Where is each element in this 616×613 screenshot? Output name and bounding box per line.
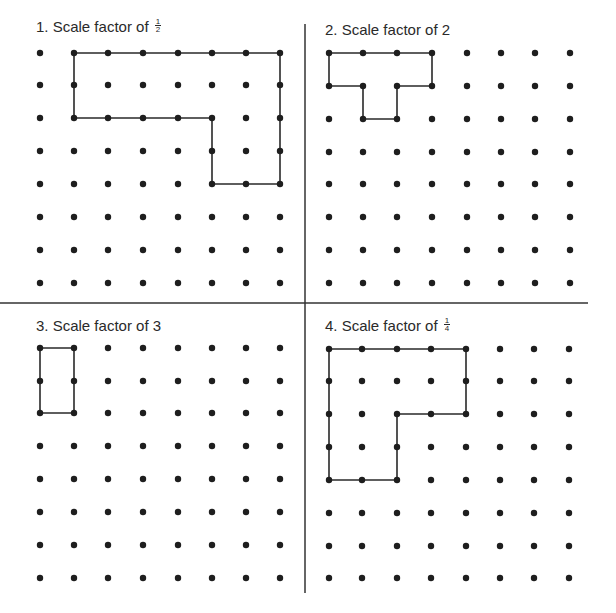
grid-dot [243,82,249,88]
grid-dot [71,575,77,581]
grid-dot [277,345,283,351]
grid-dot [277,509,283,515]
grid-dot [71,148,77,154]
grid-dot [71,410,77,416]
grid-dot [209,280,215,286]
grid-dot [394,116,400,122]
grid-dot [37,476,43,482]
grid-dot [140,280,146,286]
title-text: 2. Scale factor of 2 [325,21,450,38]
grid-dot [277,443,283,449]
grid-dot [429,83,435,89]
fraction: 12 [155,18,161,33]
grid-dot [71,247,77,253]
grid-dot [243,378,249,384]
grid-dot [429,149,435,155]
grid-dot [532,280,538,286]
grid-dot [71,82,77,88]
grid-dot [105,476,111,482]
grid-dot [428,346,434,352]
grid-dot [497,575,503,581]
grid-dot [394,181,400,187]
grid-dot [105,82,111,88]
grid-dot [105,575,111,581]
grid-dot [429,50,435,56]
grid-dot [277,148,283,154]
grid-dot [175,575,181,581]
grid-dot [531,444,537,450]
grid-dot [531,378,537,384]
panel-1 [37,50,283,286]
grid-dot [71,280,77,286]
grid-dot [464,181,470,187]
grid-dot [428,575,434,581]
grid-dot [243,148,249,154]
grid-dot [360,50,366,56]
grid-dot [243,345,249,351]
grid-dot [140,82,146,88]
grid-dot [175,410,181,416]
grid-dot [326,411,332,417]
grid-dot [429,214,435,220]
title-text: 4. Scale factor of [325,317,442,334]
grid-dot [37,115,43,121]
grid-dot [140,115,146,121]
grid-dot [243,476,249,482]
grid-dot [566,510,572,516]
grid-dot [37,509,43,515]
grid-dot [498,50,504,56]
grid-dot [209,148,215,154]
grid-dot [532,247,538,253]
grid-dot [71,476,77,482]
grid-dot [243,410,249,416]
panel-title-2: 2. Scale factor of 2 [325,21,450,38]
dot-grid-worksheet [0,0,616,613]
grid-dot [277,542,283,548]
grid-dot [567,116,573,122]
grid-dot [209,345,215,351]
grid-dot [243,542,249,548]
grid-dot [175,509,181,515]
grid-dot [394,50,400,56]
grid-dot [464,280,470,286]
grid-dot [464,116,470,122]
grid-dot [498,214,504,220]
grid-dot [566,411,572,417]
grid-dot [140,410,146,416]
grid-dot [209,542,215,548]
grid-dot [140,476,146,482]
grid-dot [394,247,400,253]
grid-dot [175,345,181,351]
grid-dot [37,181,43,187]
grid-dot [326,214,332,220]
grid-dot [463,477,469,483]
grid-dot [359,346,365,352]
grid-dot [277,214,283,220]
grid-dot [209,115,215,121]
grid-dot [209,509,215,515]
grid-dot [105,148,111,154]
grid-dot [394,411,400,417]
grid-dot [71,509,77,515]
grid-dot [531,477,537,483]
grid-dot [429,247,435,253]
grid-dot [209,214,215,220]
grid-dot [464,247,470,253]
grid-dot [360,116,366,122]
grid-dot [428,444,434,450]
grid-dot [532,181,538,187]
grid-dot [37,443,43,449]
grid-dot [531,346,537,352]
grid-dot [209,575,215,581]
grid-dot [326,346,332,352]
grid-dot [394,280,400,286]
grid-dot [463,575,469,581]
grid-dot [428,378,434,384]
grid-dot [532,50,538,56]
grid-dot [566,444,572,450]
grid-dot [37,280,43,286]
grid-dot [428,477,434,483]
grid-dot [497,444,503,450]
grid-dot [566,575,572,581]
grid-dot [566,477,572,483]
